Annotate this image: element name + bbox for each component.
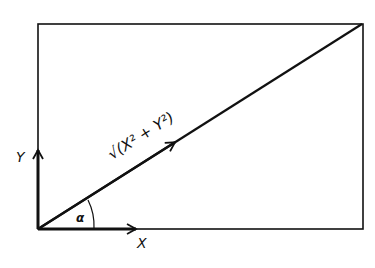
vector-diagram: α X Y √(X² + Y²)	[0, 0, 375, 268]
hypotenuse-label: √(X² + Y²)	[105, 108, 178, 163]
y-axis-label: Y	[16, 149, 26, 165]
diagonal-arrow	[38, 142, 175, 229]
angle-arc	[88, 200, 94, 229]
angle-label: α	[76, 211, 85, 225]
x-axis-label: X	[136, 235, 147, 251]
